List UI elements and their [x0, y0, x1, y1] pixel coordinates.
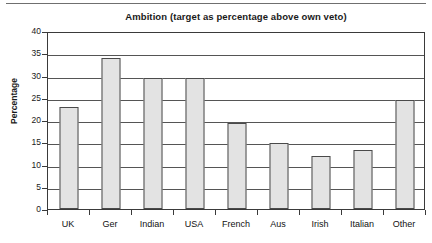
y-axis-title: Percentage	[9, 61, 19, 141]
bar-french	[228, 123, 247, 209]
y-tick-label: 25	[19, 94, 41, 103]
bar-ger	[102, 58, 121, 209]
y-tick-label: 0	[19, 205, 41, 214]
x-tick-mark	[299, 210, 300, 215]
bar-slot	[174, 33, 216, 209]
bar-slot	[300, 33, 342, 209]
header-divider	[6, 3, 426, 4]
y-tick-label: 10	[19, 161, 41, 170]
y-tick-mark	[42, 166, 47, 167]
y-tick-label: 40	[19, 27, 41, 36]
bar-slot	[258, 33, 300, 209]
y-tick-mark	[42, 54, 47, 55]
y-tick-label: 35	[19, 49, 41, 58]
y-tick-mark	[42, 188, 47, 189]
x-tick-mark	[215, 210, 216, 215]
bar-italian	[354, 150, 373, 209]
bar-slot	[48, 33, 90, 209]
y-tick-label: 15	[19, 138, 41, 147]
bar-aus	[270, 143, 289, 209]
bar-uk	[60, 107, 79, 209]
x-tick-mark	[47, 210, 48, 215]
y-tick-label: 5	[19, 183, 41, 192]
x-tick-label-other: Other	[374, 219, 432, 229]
y-tick-mark	[42, 143, 47, 144]
x-tick-mark	[257, 210, 258, 215]
x-tick-mark	[383, 210, 384, 215]
bar-slot	[342, 33, 384, 209]
bar-indian	[144, 78, 163, 209]
y-tick-mark	[42, 77, 47, 78]
y-tick-mark	[42, 32, 47, 33]
bars-group	[48, 33, 424, 209]
bar-slot	[90, 33, 132, 209]
bar-usa	[186, 78, 205, 209]
x-tick-mark	[89, 210, 90, 215]
bar-slot	[216, 33, 258, 209]
bar-other	[396, 100, 415, 209]
x-tick-mark	[341, 210, 342, 215]
bar-slot	[384, 33, 426, 209]
bar-irish	[312, 156, 331, 209]
x-tick-mark	[425, 210, 426, 215]
plot-area	[47, 32, 425, 210]
bar-chart-figure: Ambition (target as percentage above own…	[0, 0, 432, 243]
bar-slot	[132, 33, 174, 209]
y-tick-mark	[42, 99, 47, 100]
y-tick-label: 20	[19, 116, 41, 125]
x-tick-mark	[131, 210, 132, 215]
y-tick-label: 30	[19, 72, 41, 81]
chart-title: Ambition (target as percentage above own…	[46, 11, 426, 22]
x-tick-mark	[173, 210, 174, 215]
y-tick-mark	[42, 121, 47, 122]
